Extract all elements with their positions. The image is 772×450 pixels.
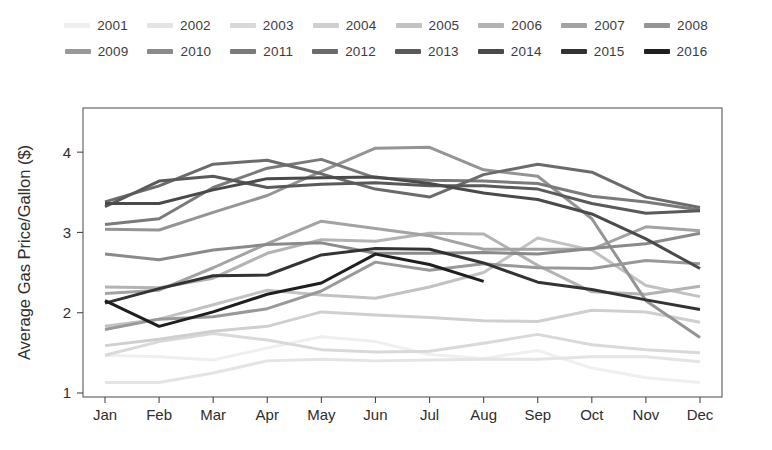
x-tick-label-Oct: Oct xyxy=(580,406,604,423)
x-tick-label-Jul: Jul xyxy=(420,406,439,423)
x-tick-label-Aug: Aug xyxy=(470,406,497,423)
series-line-2015 xyxy=(105,248,700,309)
x-tick-label-May: May xyxy=(307,406,336,423)
y-axis-title: Average Gas Price/Gallon ($) xyxy=(15,145,33,360)
gas-price-line-chart-figure: 20012002200320042005200620072008 2009201… xyxy=(0,0,772,450)
y-tick-label-4: 4 xyxy=(63,144,71,161)
x-tick-label-Jan: Jan xyxy=(93,406,117,423)
series-line-2002 xyxy=(105,357,700,383)
series-group xyxy=(105,147,700,382)
y-tick-label-2: 2 xyxy=(63,304,71,321)
x-tick-label-Jun: Jun xyxy=(363,406,387,423)
y-tick-label-3: 3 xyxy=(63,224,71,241)
plot-area: 4321JanFebMarAprMayJunJulAugSepOctNovDec… xyxy=(0,0,772,450)
x-tick-label-Mar: Mar xyxy=(200,406,226,423)
series-line-2003 xyxy=(105,334,700,356)
x-tick-label-Nov: Nov xyxy=(633,406,660,423)
x-tick-label-Sep: Sep xyxy=(524,406,551,423)
x-tick-label-Feb: Feb xyxy=(146,406,172,423)
series-line-2009 xyxy=(105,261,700,330)
y-tick-label-1: 1 xyxy=(63,384,71,401)
plot-svg: 4321JanFebMarAprMayJunJulAugSepOctNovDec… xyxy=(0,0,772,450)
x-tick-label-Apr: Apr xyxy=(256,406,279,423)
x-tick-label-Dec: Dec xyxy=(687,406,714,423)
